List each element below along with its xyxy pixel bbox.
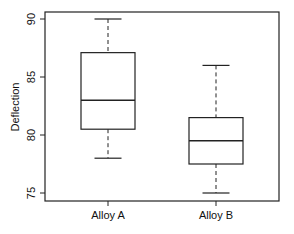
x-tick-label: Alloy B (199, 209, 233, 221)
y-tick-label: 75 (25, 187, 37, 199)
box-plot-chart: 75808590 Alloy AAlloy B Deflection (0, 0, 294, 234)
x-tick-label: Alloy A (91, 209, 125, 221)
iqr-box (81, 53, 135, 130)
y-axis: 75808590 (25, 13, 45, 199)
boxes (81, 19, 243, 193)
box-alloy-b (189, 65, 243, 193)
box-alloy-a (81, 19, 135, 158)
y-tick-label: 80 (25, 129, 37, 141)
plot-frame (45, 12, 279, 201)
y-axis-label: Deflection (9, 83, 21, 132)
y-tick-label: 85 (25, 71, 37, 83)
y-tick-label: 90 (25, 13, 37, 25)
x-axis: Alloy AAlloy B (91, 201, 233, 221)
